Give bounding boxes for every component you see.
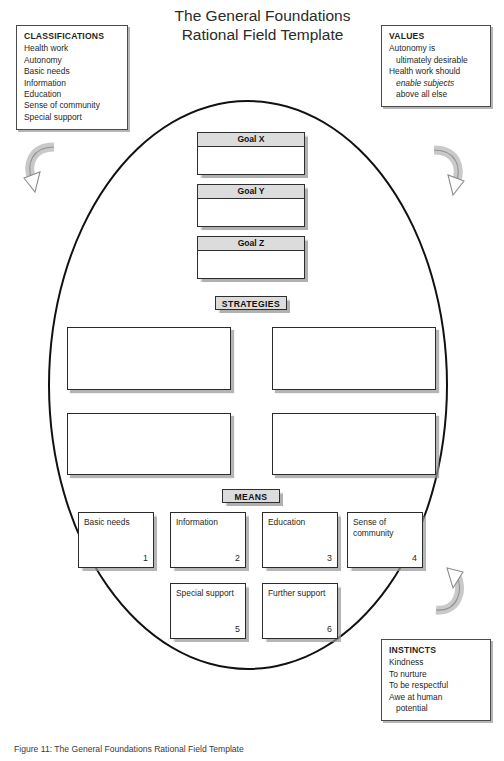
classifications-item: Basic needs bbox=[24, 66, 121, 77]
classifications-item: Sense of community bbox=[24, 100, 121, 111]
means-box-label: Further support bbox=[268, 588, 332, 599]
instincts-line: potential bbox=[389, 703, 484, 714]
instincts-note: INSTINCTS Kindness To nurture To be resp… bbox=[381, 639, 491, 721]
means-box-label: Information bbox=[176, 517, 240, 528]
means-label-chip: MEANS bbox=[222, 489, 280, 503]
values-line-emphasis: enable subjects bbox=[389, 78, 484, 89]
figure-title-line-2: Rational Field Template bbox=[145, 25, 380, 44]
bottom-right-curved-arrow-icon bbox=[420, 558, 470, 624]
figure-title: The General Foundations Rational Field T… bbox=[145, 6, 380, 44]
values-line: Health work should bbox=[389, 66, 484, 77]
means-box-number: 1 bbox=[143, 553, 148, 564]
values-heading: VALUES bbox=[389, 31, 484, 42]
goal-box-body[interactable] bbox=[198, 147, 304, 174]
strategy-box[interactable] bbox=[272, 413, 436, 475]
instincts-line: To be respectful bbox=[389, 680, 484, 691]
means-box-number: 6 bbox=[327, 624, 332, 635]
goal-box[interactable]: Goal Z bbox=[197, 236, 305, 279]
strategy-box[interactable] bbox=[272, 327, 436, 390]
means-box-number: 2 bbox=[235, 553, 240, 564]
top-right-curved-arrow-icon bbox=[418, 145, 470, 203]
goal-box[interactable]: Goal X bbox=[197, 132, 305, 175]
values-line: ultimately desirable bbox=[389, 55, 484, 66]
classifications-item: Education bbox=[24, 89, 121, 100]
means-box[interactable]: Sense of community 4 bbox=[347, 512, 423, 568]
means-box-label: Basic needs bbox=[84, 517, 148, 528]
means-box[interactable]: Basic needs 1 bbox=[78, 512, 154, 568]
instincts-line: Awe at human bbox=[389, 692, 484, 703]
classifications-item: Autonomy bbox=[24, 55, 121, 66]
instincts-line: To nurture bbox=[389, 669, 484, 680]
top-left-curved-arrow-icon bbox=[22, 142, 74, 200]
strategy-box[interactable] bbox=[67, 327, 231, 390]
instincts-line: Kindness bbox=[389, 657, 484, 668]
means-box-number: 3 bbox=[327, 553, 332, 564]
means-box[interactable]: Information 2 bbox=[170, 512, 246, 568]
figure-caption: Figure 11: The General Foundations Ratio… bbox=[14, 744, 244, 755]
classifications-note: CLASSIFICATIONS Health work Autonomy Bas… bbox=[16, 25, 128, 130]
instincts-heading: INSTINCTS bbox=[389, 645, 484, 656]
classifications-item: Health work bbox=[24, 43, 121, 54]
means-box-number: 4 bbox=[412, 553, 417, 564]
means-box[interactable]: Further support 6 bbox=[262, 583, 338, 639]
means-box-number: 5 bbox=[235, 624, 240, 635]
goal-box-header: Goal Y bbox=[198, 185, 304, 199]
goal-box-header: Goal Z bbox=[198, 237, 304, 251]
means-box-label: Education bbox=[268, 517, 332, 528]
means-box[interactable]: Special support 5 bbox=[170, 583, 246, 639]
strategy-box[interactable] bbox=[67, 413, 231, 475]
values-line: above all else bbox=[389, 89, 484, 100]
values-line: Autonomy is bbox=[389, 43, 484, 54]
goal-box-header: Goal X bbox=[198, 133, 304, 147]
figure-canvas: The General Foundations Rational Field T… bbox=[0, 0, 504, 761]
classifications-item: Special support bbox=[24, 112, 121, 123]
means-box[interactable]: Education 3 bbox=[262, 512, 338, 568]
goal-box-body[interactable] bbox=[198, 199, 304, 226]
classifications-item: Information bbox=[24, 78, 121, 89]
goal-box[interactable]: Goal Y bbox=[197, 184, 305, 227]
strategies-label-chip: STRATEGIES bbox=[215, 296, 287, 310]
goal-box-body[interactable] bbox=[198, 251, 304, 278]
means-box-label: Special support bbox=[176, 588, 240, 599]
classifications-heading: CLASSIFICATIONS bbox=[24, 31, 121, 42]
values-note: VALUES Autonomy is ultimately desirable … bbox=[381, 25, 491, 107]
means-box-label: Sense of community bbox=[353, 517, 417, 538]
values-line-italic: enable subjects bbox=[396, 78, 454, 88]
figure-title-line-1: The General Foundations bbox=[145, 6, 380, 25]
